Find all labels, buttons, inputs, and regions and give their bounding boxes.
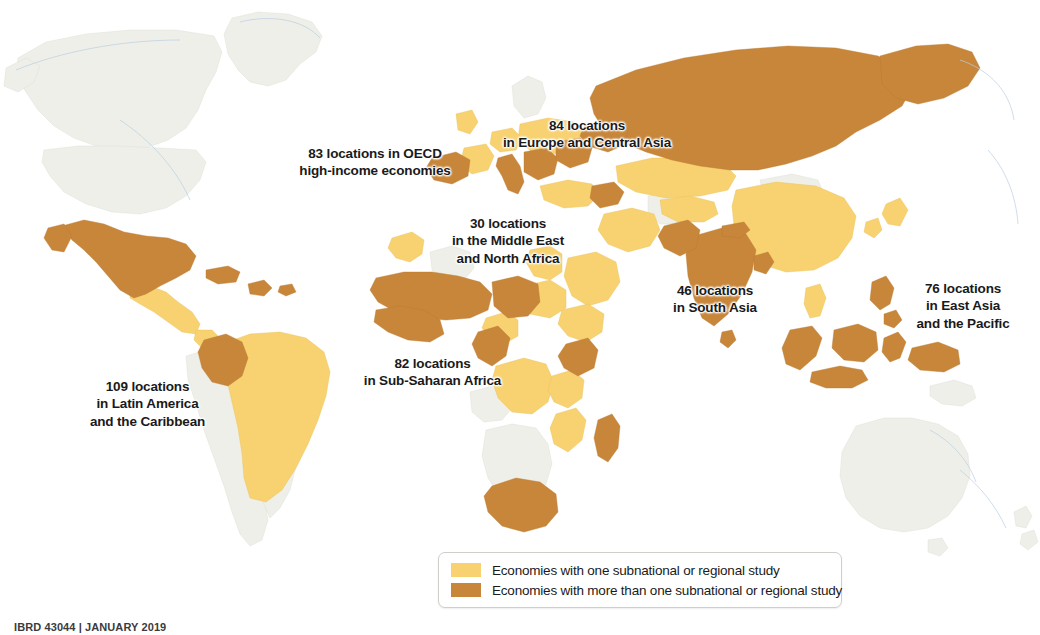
ibrd-credit: IBRD 43044 | JANUARY 2019 (14, 621, 166, 633)
label-middle-east-north-africa: 30 locations in the Middle East and Nort… (413, 215, 603, 267)
label-lac-line1: 109 locations (60, 378, 235, 395)
world-map (0, 0, 1040, 635)
label-eca-line1: 84 locations (462, 117, 712, 134)
map-legend: Economies with one subnational or region… (438, 552, 842, 608)
label-eap-line1: 76 locations (893, 280, 1033, 297)
label-eap-line3: and the Pacific (893, 315, 1033, 332)
world-map-figure: 83 locations in OECD high-income economi… (0, 0, 1040, 635)
label-south-asia: 46 locations in South Asia (645, 282, 785, 317)
label-lac-line3: and the Caribbean (60, 413, 235, 430)
label-europe-central-asia: 84 locations in Europe and Central Asia (462, 117, 712, 152)
legend-swatch-one-study (451, 563, 481, 577)
label-sa-line1: 46 locations (645, 282, 785, 299)
label-ssa-line1: 82 locations (345, 355, 520, 372)
legend-label-one-study: Economies with one subnational or region… (492, 563, 780, 578)
label-latin-america-caribbean: 109 locations in Latin America and the C… (60, 378, 235, 430)
label-mena-line2: in the Middle East (413, 232, 603, 249)
label-eca-line2: in Europe and Central Asia (462, 134, 712, 151)
label-sub-saharan-africa: 82 locations in Sub-Saharan Africa (345, 355, 520, 390)
legend-item-many-studies: Economies with more than one subnational… (451, 580, 831, 600)
legend-label-many-studies: Economies with more than one subnational… (492, 583, 842, 598)
label-mena-line3: and North Africa (413, 250, 603, 267)
label-sa-line2: in South Asia (645, 299, 785, 316)
label-ssa-line2: in Sub-Saharan Africa (345, 372, 520, 389)
label-oecd: 83 locations in OECD high-income economi… (275, 145, 475, 180)
label-lac-line2: in Latin America (60, 395, 235, 412)
label-oecd-line2: high-income economies (275, 162, 475, 179)
legend-item-one-study: Economies with one subnational or region… (451, 560, 831, 580)
label-mena-line1: 30 locations (413, 215, 603, 232)
label-eap-line2: in East Asia (893, 297, 1033, 314)
label-east-asia-pacific: 76 locations in East Asia and the Pacifi… (893, 280, 1033, 332)
legend-swatch-many-studies (451, 583, 481, 597)
label-oecd-line1: 83 locations in OECD (275, 145, 475, 162)
